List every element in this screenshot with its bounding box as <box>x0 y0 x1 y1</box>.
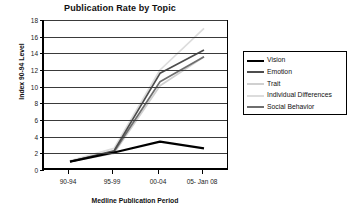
y-axis-tick-label: 16 <box>14 33 38 40</box>
legend-item-label: Social Behavior <box>267 104 314 111</box>
chart-figure: Publication Rate by Topic Index 90-94 Le… <box>0 0 351 217</box>
x-axis-tick <box>202 170 203 174</box>
gridline <box>44 87 227 88</box>
legend-swatch-icon <box>247 71 264 73</box>
legend-item[interactable]: Social Behavior <box>244 101 346 113</box>
y-axis-tick-label: 14 <box>14 50 38 57</box>
plot-area <box>42 20 228 170</box>
legend-swatch-icon <box>247 83 264 85</box>
legend-item[interactable]: Vision <box>244 55 346 67</box>
y-axis-tick-label: 10 <box>14 83 38 90</box>
gridline <box>44 103 227 104</box>
y-axis-tick <box>40 120 44 121</box>
chart-legend: VisionEmotionTraitIndividual Differences… <box>243 51 347 115</box>
gridline <box>44 70 227 71</box>
y-axis-tick <box>40 20 44 21</box>
chart-title: Publication Rate by Topic <box>0 3 240 13</box>
series-line <box>70 28 204 161</box>
x-axis-tick <box>112 170 113 174</box>
legend-swatch-icon <box>247 95 264 97</box>
y-axis-tick-label: 4 <box>14 133 38 140</box>
y-axis-tick <box>40 103 44 104</box>
series-lines <box>44 20 230 170</box>
x-axis-tick-label: 90-94 <box>60 178 77 185</box>
x-axis-ticks <box>42 170 228 175</box>
y-axis-tick-label: 12 <box>14 67 38 74</box>
legend-swatch-icon <box>247 60 264 62</box>
x-axis-tick-label: 00-04 <box>150 178 167 185</box>
y-axis-tick <box>40 53 44 54</box>
gridline <box>44 20 227 21</box>
legend-item-label: Vision <box>267 57 285 64</box>
x-axis-tick <box>68 170 69 174</box>
x-axis-tick-labels: 90-9495-9900-0405- Jan 08 <box>42 178 228 190</box>
legend-item[interactable]: Emotion <box>244 67 346 79</box>
y-axis-tick-label: 0 <box>14 167 38 174</box>
gridline <box>44 153 227 154</box>
x-axis-tick <box>158 170 159 174</box>
x-axis-tick-label: 95-99 <box>104 178 121 185</box>
legend-item-label: Emotion <box>267 69 292 76</box>
y-axis-tick-label: 18 <box>14 17 38 24</box>
gridline <box>44 137 227 138</box>
legend-item[interactable]: Trait <box>244 78 346 90</box>
y-axis-tick-label: 6 <box>14 117 38 124</box>
legend-item-label: Trait <box>267 81 280 88</box>
x-axis-title: Medline Publication Period <box>42 197 228 204</box>
legend-item-label: Individual Differences <box>267 92 332 99</box>
x-axis-tick-label: 05- Jan 08 <box>187 178 218 185</box>
y-axis-tick <box>40 137 44 138</box>
y-axis-tick-label: 8 <box>14 100 38 107</box>
y-axis-tick <box>40 87 44 88</box>
y-axis-tick <box>40 37 44 38</box>
gridline <box>44 37 227 38</box>
legend-item[interactable]: Individual Differences <box>244 90 346 102</box>
y-axis-tick <box>40 153 44 154</box>
gridline <box>44 53 227 54</box>
y-axis-tick-label: 2 <box>14 150 38 157</box>
y-axis-tick <box>40 70 44 71</box>
gridline <box>44 120 227 121</box>
legend-swatch-icon <box>247 106 264 108</box>
y-axis-tick-labels: 024681012141618 <box>12 20 38 170</box>
